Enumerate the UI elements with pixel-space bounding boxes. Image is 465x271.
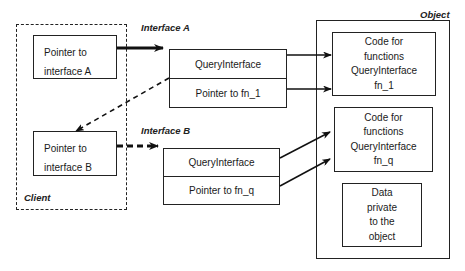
connectors-layer xyxy=(0,0,465,271)
arrow-interface-b-fnq-to-code-2 xyxy=(280,159,330,186)
arrow-queryinterface-to-pointer-b xyxy=(76,78,169,131)
arrow-interface-b-queryinterface-to-code-2 xyxy=(280,132,330,158)
